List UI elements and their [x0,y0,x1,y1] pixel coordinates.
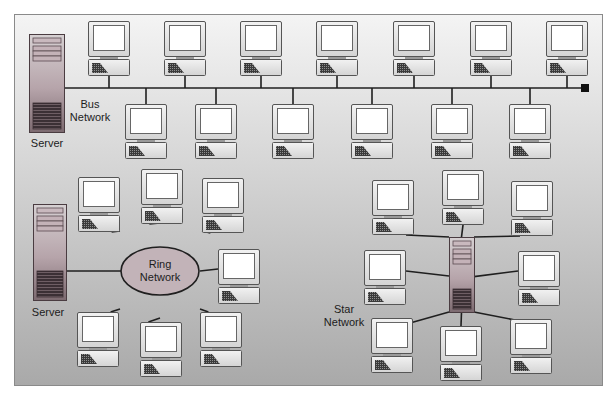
bus-label-line2: Network [70,111,111,123]
monitor-stand [230,285,248,287]
star-label-line1: Star [334,303,355,315]
monitor-screen [476,26,507,51]
monitor-stand [482,57,500,59]
monitor-screen [377,323,408,348]
monitor-stand [405,57,423,59]
monitor-stand [558,57,576,59]
bus-server [30,35,65,133]
star-computer-3 [512,182,553,236]
server-drive-bay [37,216,63,221]
ring-computer-5 [201,313,242,367]
monitor-screen [278,109,309,134]
star-computer-4 [365,251,406,305]
bus-label-line1: Bus [81,98,100,110]
monitor-stand [212,348,230,350]
monitor-stand [89,348,107,350]
bus-computer-top-2 [165,22,206,76]
server-vent-grill [453,289,471,309]
star-hub-server [450,238,475,313]
monitor-screen [446,331,477,356]
ring-computer-1 [79,178,120,232]
monitor-stand [452,362,470,364]
monitor-stand [207,140,225,142]
diagram-canvas: Bus Network Server Server Ring Network S… [0,0,615,398]
monitor-stand [530,287,548,289]
network-topology-diagram: Bus Network Server Server Ring Network S… [0,0,615,398]
star-spoke-line [461,312,462,326]
monitor-stand [454,206,472,208]
ring-computer-2 [142,170,183,224]
ring-computer-3 [203,179,244,233]
server-drive-bay [453,241,471,246]
monitor-screen [370,255,401,280]
monitor-screen [357,109,388,134]
bus-computer-top-1 [89,22,130,76]
server-drive-bay [453,254,471,259]
server-vent-grill [33,103,61,129]
monitor-screen [146,327,177,352]
ring-computer-6 [141,323,182,377]
server-vent-grill [37,271,63,297]
bus-computer-top-6 [471,22,512,76]
bus-computer-top-4 [317,22,358,76]
server-drive-bay [37,226,63,231]
monitor-stand [383,354,401,356]
monitor-screen [322,26,353,51]
bus-server-label: Server [31,137,64,149]
monitor-screen [448,175,479,200]
ring-label-line1: Ring [149,258,172,270]
star-computer-8 [511,320,552,374]
monitor-screen [147,174,178,199]
monitor-stand [443,140,461,142]
monitor-screen [131,109,162,134]
monitor-stand [137,140,155,142]
ring-server [34,205,67,301]
star-computer-2 [443,171,484,225]
star-computer-7 [441,327,482,381]
monitor-screen [224,254,255,279]
bus-computer-bottom-1 [126,105,167,159]
star-spoke-line [474,236,520,237]
star-computer-5 [519,252,560,306]
ring-computer-7 [78,313,119,367]
ring-label-line2: Network [140,271,181,283]
monitor-screen [516,324,547,349]
server-drive-bay [37,221,63,226]
server-drive-bay [33,46,61,51]
star-label-line2: Network [324,316,365,328]
monitor-stand [328,57,346,59]
bus-computer-bottom-2 [196,105,237,159]
monitor-screen [246,26,277,51]
monitor-screen [94,26,125,51]
bus-terminator [581,84,589,92]
bus-computer-top-5 [394,22,435,76]
monitor-stand [376,286,394,288]
bus-computer-bottom-3 [273,105,314,159]
monitor-stand [153,205,171,207]
ring-server-label: Server [32,306,65,318]
server-drive-bay [33,38,61,43]
monitor-stand [252,57,270,59]
monitor-stand [384,216,402,218]
monitor-screen [517,186,548,211]
monitor-stand [152,358,170,360]
monitor-stand [522,355,540,357]
monitor-stand [521,140,539,142]
monitor-screen [206,317,237,342]
monitor-screen [399,26,430,51]
server-drive-bay [33,51,61,56]
monitor-screen [83,317,114,342]
bus-computer-top-3 [241,22,282,76]
monitor-screen [208,183,239,208]
server-drive-bay [33,56,61,61]
monitor-screen [524,256,555,281]
bus-computer-top-7 [547,22,588,76]
monitor-stand [523,217,541,219]
ring-computer-4 [219,250,260,304]
monitor-stand [214,214,232,216]
star-computer-1 [373,181,414,235]
monitor-screen [84,182,115,207]
monitor-screen [170,26,201,51]
monitor-stand [90,213,108,215]
bus-computer-bottom-4 [352,105,393,159]
